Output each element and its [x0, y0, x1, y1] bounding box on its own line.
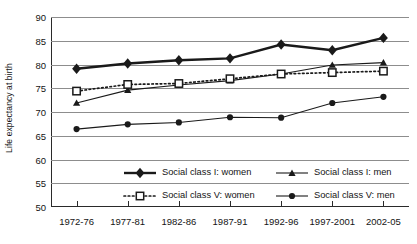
data-point — [277, 70, 284, 77]
series-3 — [73, 67, 387, 94]
data-point — [278, 115, 284, 121]
legend-label: Social class I: men — [314, 168, 392, 177]
x-axis-tick-label: 1972-76 — [59, 216, 94, 227]
y-axis-tick-label: 55 — [35, 178, 46, 189]
x-axis-tick-label: 1992-96 — [264, 216, 299, 227]
y-axis-tick-label: 80 — [35, 59, 46, 70]
legend-swatch-open-square-icon — [123, 190, 157, 202]
data-point — [174, 55, 183, 65]
legend-swatch-filled-triangle-icon — [275, 167, 309, 179]
data-point — [328, 45, 337, 55]
data-point — [176, 119, 182, 125]
y-axis-tick-label: 50 — [35, 202, 46, 213]
y-axis-tick-label: 60 — [35, 154, 46, 165]
legend-item: Social class I: men — [275, 167, 413, 179]
data-point — [380, 67, 387, 74]
data-point — [380, 94, 386, 100]
data-point — [73, 87, 80, 94]
series-4 — [73, 94, 386, 132]
x-axis-tick-label: 1982-86 — [161, 216, 196, 227]
chart-legend: Social class I: womenSocial class I: men… — [123, 161, 413, 207]
data-point — [227, 114, 233, 120]
x-axis-tick-label: 1977-81 — [110, 216, 145, 227]
legend-item: Social class I: women — [123, 167, 275, 179]
y-axis-tick-label: 75 — [35, 83, 46, 94]
data-point — [124, 81, 131, 88]
y-axis-tick-label: 85 — [35, 35, 46, 46]
data-point — [125, 121, 131, 127]
data-point — [226, 53, 235, 63]
data-point — [226, 75, 233, 82]
data-point — [72, 64, 81, 74]
legend-label: Social class V: women — [162, 191, 255, 200]
life-expectancy-line-chart: Life expectancy at birth 908580757065605… — [0, 0, 417, 244]
data-point — [329, 100, 335, 106]
y-axis-tick-label: 65 — [35, 130, 46, 141]
data-point — [277, 39, 286, 49]
legend-swatch-filled-diamond-icon — [123, 167, 157, 179]
legend-label: Social class V: men — [314, 191, 395, 200]
data-point — [379, 33, 388, 43]
legend-item: Social class V: men — [275, 190, 413, 202]
legend-swatch-filled-circle-icon — [275, 190, 309, 202]
plot-area: 908580757065605550 1972-761977-811982-86… — [51, 17, 409, 207]
y-axis-title-label: Life expectancy at birth — [4, 63, 14, 153]
data-point — [175, 80, 182, 87]
data-point — [73, 126, 79, 132]
series-line — [77, 97, 384, 129]
x-axis-tick-label: 1997-2001 — [310, 216, 355, 227]
data-point — [329, 69, 336, 76]
data-point — [123, 58, 132, 68]
legend-item: Social class V: women — [123, 190, 275, 202]
x-axis-tick-label: 2002-05 — [366, 216, 401, 227]
y-axis-title: Life expectancy at birth — [0, 0, 18, 215]
series-1 — [72, 33, 388, 74]
legend-label: Social class I: women — [162, 168, 251, 177]
y-axis-tick-label: 70 — [35, 107, 46, 118]
x-axis-tick-label: 1987-91 — [213, 216, 248, 227]
y-axis-tick-label: 90 — [35, 12, 46, 23]
